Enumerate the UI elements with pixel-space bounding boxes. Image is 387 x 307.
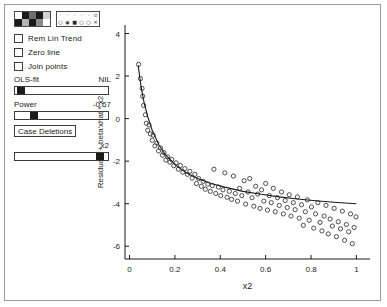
data-point bbox=[330, 224, 334, 228]
symbol-swatch-7[interactable]: ◉ bbox=[64, 19, 71, 26]
color-swatch-4[interactable] bbox=[43, 12, 50, 19]
data-point bbox=[265, 208, 269, 212]
checkbox-rem-lin-trend[interactable]: Rem Lin Trend bbox=[14, 32, 82, 45]
data-point bbox=[285, 205, 289, 209]
data-point bbox=[203, 187, 207, 191]
data-point bbox=[344, 222, 348, 226]
case-deletions-button[interactable]: Case Deletions bbox=[14, 125, 76, 137]
color-swatch-5[interactable] bbox=[15, 19, 22, 26]
x-tick-label: 0.8 bbox=[305, 265, 317, 274]
symbol-swatch-4[interactable]: · bbox=[85, 12, 92, 19]
data-point bbox=[262, 199, 266, 203]
data-point bbox=[208, 189, 212, 193]
slider-thumb[interactable] bbox=[17, 87, 25, 94]
fit-curve bbox=[138, 65, 356, 203]
data-point bbox=[235, 199, 239, 203]
data-point bbox=[350, 242, 354, 246]
data-point bbox=[293, 208, 297, 212]
data-point bbox=[313, 212, 317, 216]
data-point bbox=[283, 198, 287, 202]
checkbox-label: Rem Lin Trend bbox=[28, 34, 82, 43]
color-swatch-3[interactable] bbox=[36, 12, 43, 19]
data-point bbox=[320, 229, 324, 233]
checkbox-box[interactable] bbox=[14, 34, 23, 43]
data-point bbox=[347, 230, 351, 234]
data-point bbox=[269, 201, 273, 205]
data-point bbox=[248, 176, 252, 180]
data-point bbox=[193, 172, 197, 176]
data-point bbox=[354, 215, 358, 219]
color-palette[interactable] bbox=[14, 11, 51, 27]
data-point bbox=[289, 214, 293, 218]
data-point bbox=[199, 184, 203, 188]
data-point bbox=[312, 226, 316, 230]
data-point bbox=[231, 174, 235, 178]
data-point bbox=[342, 238, 346, 242]
y-tick-label: -2 bbox=[113, 157, 121, 166]
checkbox-zero-line[interactable]: Zero line bbox=[14, 46, 60, 59]
x-tick-label: 0.6 bbox=[260, 265, 272, 274]
data-point bbox=[340, 209, 344, 213]
data-point bbox=[225, 195, 229, 199]
scatter-plot[interactable]: 420-2-4-6 00.20.40.60.81 x2 Residuals + … bbox=[93, 13, 376, 296]
data-point bbox=[324, 203, 328, 207]
data-point bbox=[352, 225, 356, 229]
color-swatch-1[interactable] bbox=[22, 12, 29, 19]
data-point bbox=[277, 203, 281, 207]
data-point bbox=[348, 212, 352, 216]
checkbox-box[interactable] bbox=[14, 48, 23, 57]
symbol-swatch-1[interactable]: · bbox=[64, 12, 71, 19]
color-swatch-8[interactable] bbox=[36, 19, 43, 26]
data-point bbox=[338, 227, 342, 231]
color-swatch-0[interactable] bbox=[15, 12, 22, 19]
slider-thumb[interactable] bbox=[30, 112, 38, 119]
data-point bbox=[322, 214, 326, 218]
data-point bbox=[307, 218, 311, 222]
power-label: Power bbox=[14, 100, 37, 109]
x-tick-label: 0 bbox=[127, 265, 132, 274]
x-axis: 00.20.40.60.81 bbox=[125, 255, 370, 274]
data-point bbox=[221, 188, 225, 192]
symbol-swatch-6[interactable]: ○ bbox=[57, 19, 64, 26]
data-point bbox=[334, 235, 338, 239]
data-point bbox=[242, 179, 246, 183]
data-point bbox=[332, 206, 336, 210]
data-point bbox=[291, 201, 295, 205]
palette-row: ·····⊙○◉■○○✕ bbox=[14, 11, 100, 27]
data-point bbox=[303, 210, 307, 214]
checkbox-box[interactable] bbox=[14, 62, 23, 71]
data-point bbox=[223, 171, 227, 175]
color-swatch-9[interactable] bbox=[43, 19, 50, 26]
data-point bbox=[271, 186, 275, 190]
data-point bbox=[287, 193, 291, 197]
checkbox-label: Join points bbox=[28, 62, 67, 71]
y-tick-label: -4 bbox=[113, 200, 121, 209]
data-point bbox=[326, 232, 330, 236]
data-point bbox=[254, 184, 258, 188]
checkbox-join-points[interactable]: Join points bbox=[14, 60, 67, 73]
data-point bbox=[299, 203, 303, 207]
checkbox-label: Zero line bbox=[28, 48, 60, 57]
symbol-swatch-8[interactable]: ■ bbox=[71, 19, 78, 26]
plot-canvas: 420-2-4-6 00.20.40.60.81 x2 Residuals + … bbox=[93, 13, 376, 296]
y-axis: 420-2-4-6 bbox=[113, 25, 129, 259]
data-point bbox=[212, 167, 216, 171]
data-point bbox=[250, 196, 254, 200]
symbol-swatch-3[interactable]: · bbox=[78, 12, 85, 19]
x-tick-label: 0.4 bbox=[215, 265, 227, 274]
color-swatch-6[interactable] bbox=[22, 19, 29, 26]
color-swatch-2[interactable] bbox=[29, 12, 36, 19]
data-point bbox=[258, 206, 262, 210]
data-point bbox=[244, 202, 248, 206]
symbol-swatch-0[interactable]: · bbox=[57, 12, 64, 19]
color-swatch-7[interactable] bbox=[29, 19, 36, 26]
symbol-swatch-2[interactable]: · bbox=[71, 12, 78, 19]
plot-window: ·····⊙○◉■○○✕ Rem Lin Trend Zero line Joi… bbox=[4, 4, 381, 301]
data-point bbox=[281, 212, 285, 216]
data-point bbox=[233, 191, 237, 195]
symbol-swatch-10[interactable]: ○ bbox=[85, 19, 92, 26]
data-point bbox=[240, 194, 244, 198]
symbol-swatch-9[interactable]: ○ bbox=[78, 19, 85, 26]
data-point bbox=[150, 138, 154, 142]
data-point bbox=[264, 181, 268, 185]
